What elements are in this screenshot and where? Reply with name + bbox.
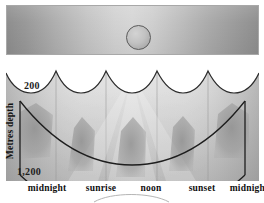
figure-root: 200 1,200 Metres depth midnight sunrise … xyxy=(0,0,264,203)
ocean-chart-svg xyxy=(6,65,259,181)
xtick-midnight-right: midnight xyxy=(230,183,264,193)
ytick-label-200: 200 xyxy=(24,80,40,91)
xtick-sunset: sunset xyxy=(189,183,216,193)
ocean-depth-chart xyxy=(6,65,259,181)
x-axis-ticks: midnight sunrise noon sunset midnight xyxy=(6,183,259,199)
water-body xyxy=(6,65,259,181)
y-axis-title: Metres depth xyxy=(5,99,15,163)
xtick-sunrise: sunrise xyxy=(86,183,116,193)
sun-icon xyxy=(126,25,151,50)
ytick-label-1200: 1,200 xyxy=(17,166,41,177)
xtick-midnight-left: midnight xyxy=(28,183,67,193)
surface-light-band xyxy=(6,5,259,55)
xtick-noon: noon xyxy=(141,183,162,193)
